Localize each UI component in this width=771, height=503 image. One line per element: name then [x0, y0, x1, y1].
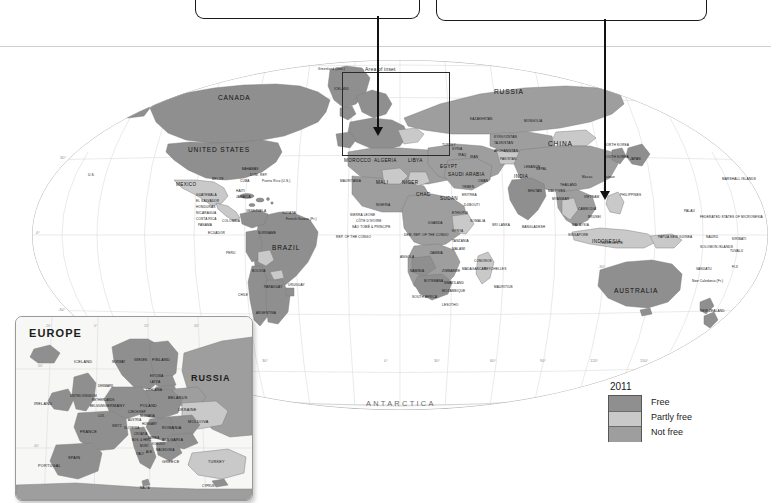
- label-macau: Macau: [582, 175, 592, 179]
- inset-label-slovenia: SLOVENIA: [124, 426, 139, 430]
- label-kyrgyzstan: KYRGYZSTAN: [494, 135, 517, 139]
- label-india: INDIA: [514, 174, 529, 179]
- label-bolivia: BOLIVIA: [252, 269, 266, 273]
- label-el-salvador: EL SALVADOR: [196, 199, 220, 203]
- callout-box-2[interactable]: [436, 0, 707, 21]
- label-australia: AUSTRALIA: [614, 287, 658, 294]
- inset-label-switz: SWITZ.: [112, 424, 122, 428]
- inset-label-lithuania: LITHUANIA: [146, 388, 162, 392]
- label-south-africa: SOUTH AFRICA: [412, 295, 438, 299]
- label-philippines: PHILIPPINES: [620, 193, 641, 197]
- inset-label-belgium: BELGIUM: [90, 404, 104, 408]
- label-myanmar: MALDIVES: [548, 189, 565, 193]
- label-sri-lanka: BANGLADESH: [522, 225, 546, 229]
- inset-area-label: Area of inset: [364, 66, 397, 72]
- label-mauritania: MAURITANIA: [340, 179, 362, 183]
- label-new-caledonia: New Caledonia (Fr.): [692, 279, 723, 283]
- map-legend: 2011 Free Partly free Not free: [608, 381, 728, 442]
- label-peru: PERU: [226, 251, 236, 255]
- label-oman: OMAN: [478, 179, 489, 183]
- label-singapore: SINGAPORE: [568, 233, 588, 237]
- label-bahamas: BAHAMAS: [242, 167, 259, 171]
- label-colombia: COLOMBIA: [222, 219, 241, 223]
- label-chad: CHAD: [416, 192, 431, 197]
- label-timor-leste: TIMOR-LESTE: [600, 241, 623, 245]
- label-botswana: BOTSWANA: [424, 279, 444, 283]
- label-united-states: UNITED STATES: [188, 146, 250, 153]
- lat-tick-30n: 30°: [60, 155, 66, 160]
- callout-box-1[interactable]: [195, 0, 420, 19]
- label-costa-rica: COSTA RICA: [196, 217, 217, 221]
- callout-1-arrowhead: [373, 127, 383, 136]
- label-argentina: ARGENTINA: [256, 311, 277, 315]
- label-drc: DEM. REP. OF THE CONGO: [404, 233, 449, 237]
- inset-label-hungary: HUNGARY: [142, 422, 157, 426]
- label-niger: NIGER: [402, 180, 419, 185]
- label-micronesia: FEDERATED STATES OF MICRONESIA: [700, 215, 763, 219]
- label-new-zealand: NEW ZEALAND: [700, 309, 725, 313]
- inset-label-albania: ALB.: [146, 450, 153, 454]
- label-mauritius: MAURITIUS: [494, 285, 513, 289]
- label-zimbabwe: ZIMBABWE: [442, 269, 460, 273]
- label-china: CHINA: [548, 140, 573, 147]
- label-madagascar: MADAGASCAR: [462, 267, 487, 271]
- lon-tick-120e: 120°: [590, 358, 599, 363]
- inset-lon-tick-40e: 40°: [194, 324, 200, 328]
- inset-label-turkey: TURKEY: [208, 460, 225, 464]
- inset-label-kosovo: KOSOVO: [152, 442, 166, 446]
- label-lesotho: LESOTHO: [442, 303, 459, 307]
- label-mozambique: MOZAMBIQUE: [442, 289, 465, 293]
- label-thailand: MYANMAR: [552, 197, 570, 201]
- label-kenya: KENYA: [452, 229, 464, 233]
- label-suriname: SURINAME: [258, 231, 276, 235]
- label-sudan: SUDAN: [440, 196, 458, 201]
- label-kazakhstan: KAZAKHSTAN: [470, 117, 493, 121]
- label-algeria: ALGERIA: [374, 158, 397, 163]
- inset-label-finland: FINLAND: [152, 358, 170, 362]
- europe-inset-title: EUROPE: [29, 327, 82, 339]
- label-yemen: YEMEN: [462, 185, 475, 189]
- inset-label-lux: LUX.: [98, 414, 105, 418]
- label-mexico: MEXICO: [176, 182, 197, 187]
- label-russia: RUSSIA: [494, 88, 524, 95]
- legend-item-free: Free: [609, 396, 641, 411]
- label-greenland: Greenland (Den.): [318, 67, 345, 71]
- label-mongolia: MONGOLIA: [524, 119, 543, 123]
- legend-year: 2011: [610, 381, 728, 392]
- label-nicaragua: NICARAGUA: [196, 211, 217, 215]
- inset-label-denmark: DENMARK: [98, 384, 113, 388]
- lon-tick-60e: 60°: [490, 358, 496, 363]
- label-tuvalu: TUVALU: [730, 249, 744, 253]
- inset-label-malta: MALTA: [140, 486, 150, 490]
- legend-swatch-stack: Free Partly free Not free: [608, 395, 642, 442]
- inset-lat-tick-40: 40°: [34, 444, 40, 448]
- label-eritrea: ERITREA: [462, 193, 478, 197]
- label-pakistan: PAKISTAN: [500, 157, 517, 161]
- label-chile: CHILE: [238, 293, 248, 297]
- inset-label-poland: POLAND: [140, 404, 157, 408]
- callout-2-leader-line: [604, 19, 606, 193]
- label-laos: THAILAND: [560, 183, 578, 187]
- inset-label-iceland: ICELAND: [74, 360, 92, 364]
- inset-label-latvia: LATVIA: [150, 380, 160, 384]
- label-panama: PANAMA: [198, 223, 213, 227]
- inset-label-romania: ROMANIA: [162, 426, 182, 430]
- label-sao-tome: SÃO TOMÉ & PRÍNCIPE: [352, 224, 391, 229]
- label-nigeria: NIGERIA: [376, 203, 391, 207]
- label-uganda: UGANDA: [428, 221, 443, 225]
- europe-inset-panel: ICELAND IRELAND UNITED KINGDOM NORWAY SW…: [15, 316, 253, 501]
- lon-tick-30s-right: -30°: [598, 264, 606, 269]
- lon-tick-150e: 150°: [640, 358, 649, 363]
- inset-label-belarus: BELARUS: [168, 396, 188, 400]
- lat-tick-0: 0°: [36, 230, 40, 235]
- label-seychelles: SEYCHELLES: [484, 267, 506, 271]
- inset-label-bulgaria: BULGARIA: [162, 438, 183, 442]
- inset-label-ukraine: UKRAINE: [178, 408, 197, 412]
- inset-label-austria: AUSTRIA: [128, 418, 141, 422]
- label-tanzania: TANZANIA: [452, 239, 469, 243]
- inset-label-moldova: MOLDOVA: [188, 420, 209, 424]
- callout-1-leader-line: [377, 16, 379, 129]
- label-bangladesh: BHUTAN: [528, 189, 542, 193]
- lon-tick-0: 0°: [384, 358, 388, 363]
- label-kiribati: KIRIBATI: [732, 237, 746, 241]
